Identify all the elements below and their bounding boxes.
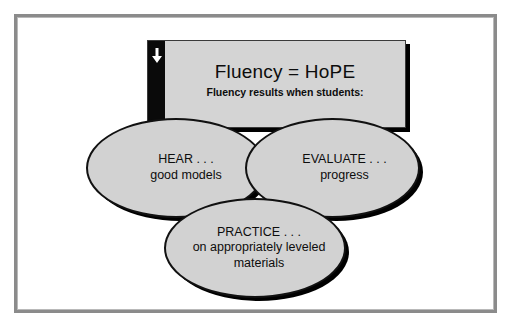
- banner-title: Fluency = HoPE: [215, 62, 356, 83]
- title-banner[interactable]: Fluency = HoPE Fluency results when stud…: [147, 40, 406, 128]
- down-arrow-icon: [151, 48, 162, 63]
- banner-sidebar: [148, 41, 165, 127]
- ellipse-practice-title: PRACTICE . . .: [217, 225, 301, 241]
- ellipse-hear-text: HEAR . . . good models: [150, 152, 222, 183]
- ellipse-evaluate-text: EVALUATE . . . progress: [302, 152, 386, 183]
- ellipse-evaluate-subtitle: progress: [320, 168, 369, 184]
- ellipse-hear-title: HEAR . . .: [158, 152, 214, 168]
- ellipse-practice-text: PRACTICE . . . on appropriately leveled …: [193, 225, 326, 272]
- ellipse-hear-subtitle: good models: [150, 168, 222, 184]
- banner-subtitle: Fluency results when students:: [207, 87, 364, 99]
- ellipse-practice-subtitle: on appropriately leveled: [193, 240, 326, 256]
- ellipse-evaluate-title: EVALUATE . . .: [302, 152, 386, 168]
- slide-canvas: Fluency = HoPE Fluency results when stud…: [0, 0, 515, 335]
- ellipse-practice[interactable]: PRACTICE . . . on appropriately leveled …: [164, 198, 346, 298]
- banner-body: Fluency = HoPE Fluency results when stud…: [165, 41, 405, 127]
- ellipse-practice-subtitle-2: materials: [234, 256, 285, 272]
